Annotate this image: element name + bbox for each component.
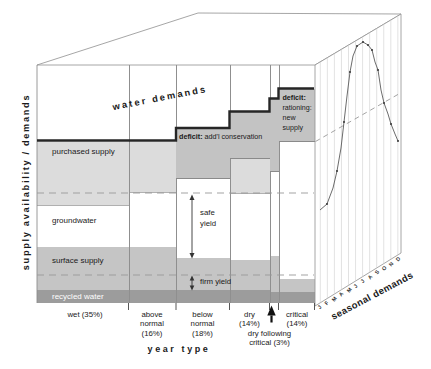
purchased-fill-dry (230, 159, 270, 194)
deficit-conservation-label: deficit:add'l conservation (179, 132, 262, 141)
deficit-region-dry-following-critical (270, 99, 279, 172)
groundwater-label: groundwater (52, 216, 96, 225)
y-axis-label: supply availability / demands (21, 62, 33, 302)
seasonal-panel-gridlines (320, 16, 398, 303)
purchased-supply-label: purchased supply (52, 147, 115, 156)
deficit-rationing-line: rationing: (283, 103, 317, 113)
surface-fill-critical (279, 279, 316, 292)
surface-supply-label: surface supply (52, 256, 104, 265)
recycled-fill-dry (230, 290, 270, 304)
curve-marker (336, 170, 338, 172)
curve-marker (367, 44, 369, 46)
safe-yield-line1: safe (200, 208, 216, 219)
safe-yield-arrow (190, 195, 195, 259)
curve-marker (326, 203, 328, 205)
curve-marker (362, 41, 364, 43)
surface-fill-dfc (270, 256, 279, 292)
month-label: D (394, 256, 401, 263)
month-label: A (338, 291, 345, 298)
recycled-water-label: recycled water (52, 292, 104, 301)
curve-marker (390, 123, 392, 125)
water-demands-label: water demands (108, 83, 212, 113)
month-label: J (359, 278, 366, 284)
month-label: O (380, 265, 387, 272)
label-line: (14%) (257, 319, 337, 329)
column-divider (230, 65, 231, 303)
curve-marker (349, 71, 351, 73)
label-line: dry following (230, 329, 310, 339)
recycled-fill-critical (279, 292, 316, 304)
curve-marker (377, 69, 379, 71)
month-label: J (352, 282, 359, 288)
column-divider (176, 65, 177, 303)
seasonal-demand-curve (320, 42, 398, 210)
deficit-conservation-text: add'l conservation (205, 132, 263, 141)
surface-fill-wet (37, 247, 129, 290)
safe-yield-label: safe yield (200, 208, 216, 229)
safe-yield-line2: yield (200, 219, 216, 230)
deficit-rationing-label: deficit: rationing: new supply (283, 93, 317, 134)
recycled-fill-below (176, 290, 230, 304)
month-label: S (373, 269, 380, 276)
deficit-conservation-bold: deficit: (179, 132, 203, 141)
curve-marker (343, 121, 345, 123)
year-type-dry-following-critical: dry following critical (3%) (230, 329, 310, 349)
month-label: M (345, 286, 352, 293)
month-label: A (366, 273, 373, 280)
x-axis-label: year type (136, 344, 222, 354)
water-supply-diagram: water demands purchased supply groundwat… (0, 0, 431, 369)
month-label: F (324, 300, 331, 306)
curve-marker (356, 45, 358, 47)
month-label: N (387, 260, 394, 267)
year-type-critical: critical (14%) (257, 310, 337, 330)
label-line: critical (3%) (230, 338, 310, 348)
recycled-fill-dfc (270, 292, 279, 304)
purchased-fill-above (129, 142, 177, 194)
curve-marker (383, 102, 385, 104)
panel-dashed-average-line (316, 93, 401, 142)
surface-fill-dry (230, 260, 270, 290)
deficit-rationing-bold: deficit: (283, 94, 306, 102)
label-line: critical (257, 310, 337, 320)
recycled-fill-above (129, 290, 177, 304)
month-label: M (331, 295, 338, 302)
box-top-face (37, 13, 401, 65)
firm-yield-label: firm yield (200, 277, 231, 288)
deficit-rationing-line: supply (283, 123, 317, 133)
seasonal-curve-markers (326, 41, 399, 205)
surface-fill-above (129, 247, 177, 290)
deficit-rationing-line: new (283, 113, 317, 123)
curve-marker (397, 140, 399, 142)
curve-marker (371, 49, 373, 51)
